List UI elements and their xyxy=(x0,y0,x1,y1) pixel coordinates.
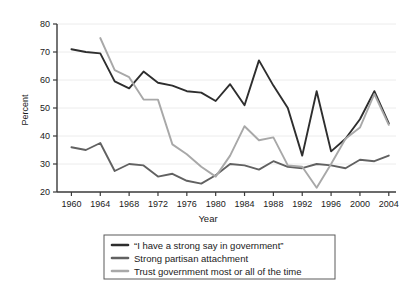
y-tick-label-30: 30 xyxy=(40,159,50,169)
x-axis-title: Year xyxy=(198,213,217,224)
x-tick-label-1980: 1980 xyxy=(206,199,226,209)
legend-label-trust-government: Trust government most or all of the time xyxy=(134,266,302,277)
y-tick-label-40: 40 xyxy=(40,131,50,141)
y-tick-label-80: 80 xyxy=(40,19,50,29)
chart-canvas: 20304050607080 1960196419681972197619801… xyxy=(0,0,412,287)
chart-legend: “I have a strong say in government” Stro… xyxy=(104,235,335,279)
x-tick-label-2000: 2000 xyxy=(350,199,370,209)
x-tick-label-1992: 1992 xyxy=(292,199,312,209)
legend-label-partisan-attachment: Strong partisan attachment xyxy=(134,253,248,264)
legend-label-say-in-government: “I have a strong say in government” xyxy=(134,240,283,251)
x-tick-label-1984: 1984 xyxy=(235,199,255,209)
x-tick-label-1964: 1964 xyxy=(90,199,110,209)
x-tick-label-1996: 1996 xyxy=(321,199,341,209)
x-tick-label-1976: 1976 xyxy=(177,199,197,209)
line-chart: 20304050607080 1960196419681972197619801… xyxy=(0,0,412,287)
x-tick-label-1972: 1972 xyxy=(148,199,168,209)
x-tick-label-2004: 2004 xyxy=(379,199,399,209)
x-tick-label-1968: 1968 xyxy=(119,199,139,209)
y-tick-label-70: 70 xyxy=(40,47,50,57)
y-tick-label-20: 20 xyxy=(40,187,50,197)
y-tick-label-50: 50 xyxy=(40,103,50,113)
y-axis-title: Percent xyxy=(20,94,30,126)
x-tick-label-1960: 1960 xyxy=(61,199,81,209)
y-tick-label-60: 60 xyxy=(40,75,50,85)
x-tick-label-1988: 1988 xyxy=(263,199,283,209)
